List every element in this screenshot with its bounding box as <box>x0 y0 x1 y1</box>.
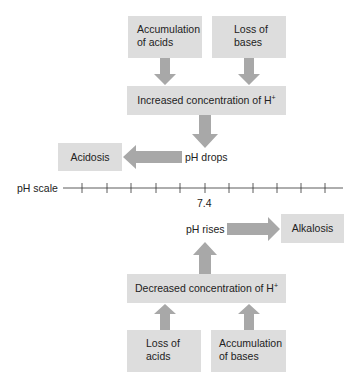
arrow-up-icon <box>154 304 176 330</box>
decreased-h-concentration-box: Decreased concentration of H+ <box>127 274 286 303</box>
acidosis-box: Acidosis <box>58 143 122 171</box>
decreased-h-text: Decreased concentration of H+ <box>135 282 278 295</box>
ph-center-value: 7.4 <box>197 197 212 210</box>
ph-drops-label: pH drops <box>185 151 228 164</box>
cause-accumulation-of-bases: Accumulation of bases <box>211 330 286 372</box>
ph-scale-line <box>63 183 343 193</box>
arrow-down-icon <box>154 58 176 85</box>
increased-h-text: Increased concentration of H+ <box>137 94 275 107</box>
arrow-right-icon <box>227 217 280 241</box>
cause-accumulation-of-acids: Accumulation of acids <box>128 16 202 58</box>
alkalosis-box: Alkalosis <box>281 214 344 243</box>
arrow-up-icon <box>193 242 217 274</box>
increased-h-concentration-box: Increased concentration of H+ <box>127 86 286 115</box>
arrow-left-icon <box>123 145 182 169</box>
arrow-up-icon <box>238 304 260 330</box>
arrow-down-icon <box>192 115 218 148</box>
cause-loss-of-acids: Loss of acids <box>127 330 201 372</box>
ph-rises-label: pH rises <box>186 223 225 236</box>
ph-scale-label: pH scale <box>17 182 58 195</box>
arrow-down-icon <box>238 58 260 85</box>
cause-loss-of-bases: Loss of bases <box>212 16 286 58</box>
